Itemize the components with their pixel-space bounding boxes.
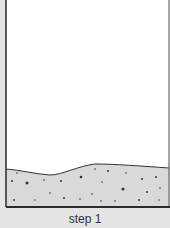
settling-diagram: step 1 — [0, 0, 170, 228]
step-caption: step 1 — [0, 211, 170, 227]
container-illustration — [0, 0, 170, 228]
